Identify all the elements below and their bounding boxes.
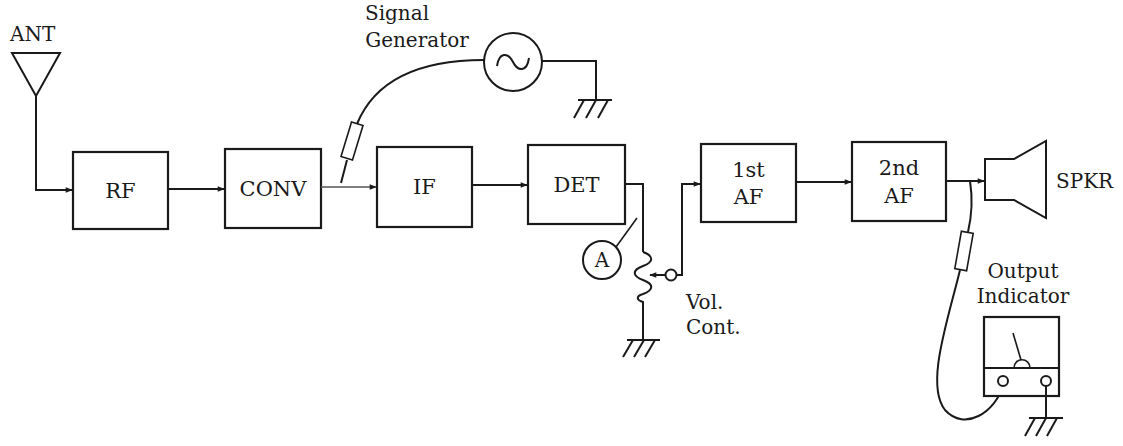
vol-cont-label-2: Cont. xyxy=(686,315,741,339)
block-rf: RF xyxy=(73,152,168,229)
wire-det-vol xyxy=(625,184,643,252)
speaker-label: SPKR xyxy=(1056,169,1114,193)
block-det: DET xyxy=(528,145,625,224)
block-2nd-af-line1: 2nd xyxy=(879,156,919,180)
block-rf-label: RF xyxy=(105,179,135,203)
ground-icon xyxy=(1025,418,1063,436)
block-if-label: IF xyxy=(413,175,436,199)
block-1st-af-line1: 1st xyxy=(732,158,765,182)
block-conv-label: CONV xyxy=(240,177,308,201)
ground-icon xyxy=(623,340,660,357)
block-2nd-af-line2: AF xyxy=(883,184,914,208)
antenna-label: ANT xyxy=(9,22,56,46)
signal-generator-label-1: Signal xyxy=(365,1,429,25)
block-2nd-af: 2nd AF xyxy=(852,142,946,221)
receiver-block-diagram: ANT RF CONV Signal Generator IF DET xyxy=(0,0,1123,446)
block-conv: CONV xyxy=(225,149,321,228)
block-if: IF xyxy=(377,147,472,227)
antenna-icon xyxy=(12,53,72,190)
block-1st-af-line2: AF xyxy=(733,185,764,209)
block-det-label: DET xyxy=(553,173,599,197)
test-point-a-label: A xyxy=(594,248,610,272)
speaker-icon xyxy=(985,141,1046,218)
ground-icon xyxy=(574,100,612,118)
output-indicator-label-2: Indicator xyxy=(977,284,1070,308)
vol-cont-label-1: Vol. xyxy=(685,290,723,314)
signal-generator-label-2: Generator xyxy=(365,28,469,52)
signal-generator-icon xyxy=(484,33,596,100)
block-1st-af: 1st AF xyxy=(701,144,796,222)
test-point-a: A xyxy=(583,218,637,279)
output-indicator-label-1: Output xyxy=(987,259,1058,283)
